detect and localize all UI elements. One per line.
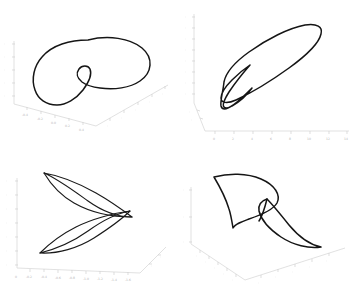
svg-text:·: ·	[309, 265, 310, 269]
svg-text:0: 0	[15, 275, 17, 279]
svg-text:·: ·	[185, 59, 186, 63]
svg-text:0.0: 0.0	[51, 121, 56, 125]
svg-text:12: 12	[326, 137, 330, 141]
y-axis-ticks: · · · · ·	[258, 253, 329, 285]
z-axis-ticks: · · · · · · · ·	[185, 15, 195, 96]
svg-text:·: ·	[4, 42, 5, 46]
svg-text:8: 8	[289, 137, 291, 141]
svg-text:-0.8: -0.8	[69, 276, 75, 280]
svg-text:·: ·	[196, 254, 197, 258]
z-axis-ticks: · · · · · · ·	[6, 179, 18, 267]
svg-text:·: ·	[189, 110, 190, 114]
y-axis	[96, 85, 168, 126]
svg-text:·: ·	[151, 264, 152, 268]
curve-elongated-loop	[221, 24, 322, 109]
svg-text:14: 14	[344, 137, 348, 141]
y-axis-ticks: · · · · ·	[107, 86, 165, 128]
svg-text:0: 0	[213, 137, 215, 141]
svg-text:4: 4	[251, 137, 253, 141]
svg-text:·: ·	[185, 48, 186, 52]
svg-text:·: ·	[185, 70, 186, 74]
svg-text:·: ·	[149, 100, 150, 104]
svg-text:·: ·	[191, 118, 192, 122]
y-axis-ticks: 0 2 4 6 8 10 12 14	[213, 131, 348, 141]
curve-bowtie-lower-inner	[40, 211, 130, 253]
svg-text:10: 10	[307, 137, 311, 141]
z-axis-ticks: · · · · ·	[4, 42, 15, 98]
svg-text:-0.4: -0.4	[22, 113, 28, 117]
svg-text:·: ·	[6, 193, 7, 197]
svg-text:·: ·	[214, 266, 215, 270]
svg-text:-1.6: -1.6	[125, 278, 131, 282]
panel-bottom-right: · · · · · · · ·	[177, 149, 355, 297]
x-axis	[194, 103, 205, 131]
svg-text:·: ·	[185, 15, 186, 19]
svg-text:·: ·	[185, 37, 186, 41]
svg-text:·: ·	[326, 259, 327, 263]
svg-text:·: ·	[6, 207, 7, 211]
svg-text:·: ·	[6, 221, 7, 225]
svg-text:·: ·	[4, 68, 5, 72]
svg-text:·: ·	[6, 263, 7, 267]
figure-canvas: · · · · · -0.4 -0.2 0.0 0.2 0.4	[0, 0, 355, 297]
svg-text:-0.2: -0.2	[37, 117, 43, 121]
svg-text:·: ·	[185, 81, 186, 85]
svg-text:·: ·	[232, 278, 233, 282]
svg-text:·: ·	[135, 108, 136, 112]
svg-text:·: ·	[183, 215, 184, 219]
x-axis-ticks: 0 -0.2 -0.4 -0.6 -0.8 -1.0 -1.2 -1.4 -1.…	[15, 269, 131, 282]
svg-text:·: ·	[160, 255, 161, 259]
svg-text:·: ·	[183, 240, 184, 244]
svg-text:6: 6	[270, 137, 272, 141]
svg-text:·: ·	[4, 94, 5, 98]
svg-text:·: ·	[223, 272, 224, 276]
svg-text:·: ·	[121, 116, 122, 120]
curve-bowtie-lower	[40, 211, 130, 253]
x-axis	[17, 268, 140, 273]
svg-text:·: ·	[6, 249, 7, 253]
curve-bean	[33, 38, 150, 105]
curve-wing-right-outer	[259, 199, 267, 221]
svg-text:·: ·	[205, 260, 206, 264]
axes-3d-panel-3: · · · · · · · 0	[6, 178, 166, 282]
svg-text:·: ·	[6, 235, 7, 239]
svg-text:-1.2: -1.2	[97, 277, 103, 281]
svg-text:·: ·	[6, 179, 7, 183]
svg-text:-1.0: -1.0	[83, 277, 89, 281]
x-axis-ticks: · · · · ·	[196, 250, 236, 282]
svg-text:0.2: 0.2	[65, 124, 70, 128]
panel-top-left: · · · · · -0.4 -0.2 0.0 0.2 0.4	[0, 0, 177, 149]
svg-text:·: ·	[185, 26, 186, 30]
svg-text:·: ·	[183, 188, 184, 192]
svg-text:-0.2: -0.2	[26, 275, 32, 279]
svg-text:·: ·	[107, 124, 108, 128]
y-axis-ticks: · ·	[149, 255, 161, 268]
svg-text:·: ·	[292, 270, 293, 274]
curve-bowtie-upper	[44, 173, 132, 217]
y-axis	[140, 247, 166, 273]
svg-text:·: ·	[275, 275, 276, 279]
svg-text:·: ·	[258, 281, 259, 285]
svg-text:-0.6: -0.6	[55, 276, 61, 280]
panel-bottom-left: · · · · · · · 0	[0, 149, 177, 297]
curve-wing-right	[259, 199, 321, 248]
svg-text:·: ·	[4, 55, 5, 59]
panel-top-right: · · · · · · · · · ·	[177, 0, 355, 149]
svg-text:-1.4: -1.4	[111, 278, 117, 282]
svg-text:·: ·	[4, 81, 5, 85]
axes-3d-panel-2: · · · · · · · · · ·	[185, 14, 349, 141]
svg-text:·: ·	[162, 92, 163, 96]
svg-text:·: ·	[185, 92, 186, 96]
x-axis-ticks: -0.4 -0.2 0.0 0.2 0.4	[22, 107, 84, 132]
svg-text:0.4: 0.4	[79, 128, 84, 132]
svg-text:2: 2	[232, 137, 234, 141]
axes-3d-panel-4: · · · · · · · ·	[183, 187, 345, 285]
svg-text:-0.4: -0.4	[41, 275, 47, 279]
